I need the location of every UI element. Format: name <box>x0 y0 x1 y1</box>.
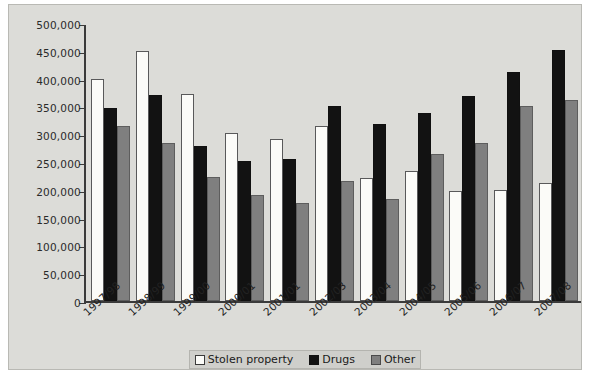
chart-legend: Stolen property Drugs Other <box>189 350 421 369</box>
x-axis-label-cell: 2007/08 <box>536 305 581 355</box>
x-axis-label-cell: 1999/00 <box>174 305 219 355</box>
bar-group <box>222 25 267 301</box>
bar-stolen <box>136 51 149 301</box>
legend-label-stolen-property: Stolen property <box>208 353 293 366</box>
y-axis-tick-label: 50,000 <box>43 269 81 281</box>
legend-swatch-icon-other <box>371 355 381 365</box>
bar-group <box>178 25 223 301</box>
y-axis-tick-label: 150,000 <box>36 214 81 226</box>
bar-stolen <box>405 171 418 301</box>
y-axis-tick-label: 200,000 <box>36 186 81 198</box>
bar-drugs <box>507 72 520 301</box>
bar-stolen <box>315 126 328 301</box>
bar-other <box>207 177 220 301</box>
x-axis-label-cell: 1997/98 <box>84 305 129 355</box>
bar-group <box>133 25 178 301</box>
y-axis-tick-label: 0 <box>74 297 81 309</box>
y-axis-tick-label: 350,000 <box>36 102 81 114</box>
x-axis-label-cell: 2006/07 <box>491 305 536 355</box>
y-axis-tick-label: 100,000 <box>36 241 81 253</box>
x-axis-label-cell: 2005/06 <box>446 305 491 355</box>
x-axis-labels: 1997/981998/991999/002000/012001/012002/… <box>84 305 581 355</box>
bar-group <box>88 25 133 301</box>
bar-stolen <box>270 139 283 301</box>
bar-other <box>117 126 130 301</box>
y-axis-tick-label: 400,000 <box>36 75 81 87</box>
bar-other <box>520 106 533 301</box>
bar-drugs <box>418 113 431 301</box>
bar-drugs <box>104 108 117 301</box>
legend-item-stolen-property: Stolen property <box>195 353 293 366</box>
y-axis-tick-label: 500,000 <box>36 19 81 31</box>
legend-item-other: Other <box>371 353 415 366</box>
bar-stolen <box>494 190 507 301</box>
bar-stolen <box>225 133 238 301</box>
bar-group <box>491 25 536 301</box>
bar-stolen <box>449 191 462 301</box>
bar-group <box>447 25 492 301</box>
legend-label-other: Other <box>384 353 415 366</box>
x-axis-label-cell: 2002/03 <box>310 305 355 355</box>
bar-drugs <box>194 146 207 301</box>
bar-drugs <box>552 50 565 301</box>
bar-other <box>565 100 578 301</box>
bar-stolen <box>181 94 194 301</box>
bar-drugs <box>149 95 162 301</box>
bar-groups <box>88 25 581 301</box>
x-axis-label-cell: 2000/01 <box>220 305 265 355</box>
bar-stolen <box>360 178 373 301</box>
chart-page: 050,000100,000150,000200,000250,000300,0… <box>0 0 590 390</box>
y-axis-tick-label: 450,000 <box>36 47 81 59</box>
legend-label-drugs: Drugs <box>322 353 355 366</box>
x-axis-label-cell: 1998/99 <box>129 305 174 355</box>
chart-panel: 050,000100,000150,000200,000250,000300,0… <box>8 4 582 370</box>
bar-group <box>357 25 402 301</box>
bar-other <box>475 143 488 301</box>
bar-group <box>312 25 357 301</box>
y-axis-tick-label: 300,000 <box>36 130 81 142</box>
x-axis-label-cell: 2001/01 <box>265 305 310 355</box>
plot-area: 050,000100,000150,000200,000250,000300,0… <box>84 25 581 303</box>
bar-other <box>431 154 444 301</box>
legend-item-drugs: Drugs <box>309 353 355 366</box>
bar-stolen <box>91 79 104 301</box>
bar-drugs <box>462 96 475 301</box>
bar-drugs <box>373 124 386 301</box>
bar-drugs <box>328 106 341 301</box>
bar-group <box>402 25 447 301</box>
y-axis-tick-label: 250,000 <box>36 158 81 170</box>
legend-swatch-icon-stolen-property <box>195 355 205 365</box>
bar-other <box>162 143 175 301</box>
legend-swatch-icon-drugs <box>309 355 319 365</box>
bar-group <box>536 25 581 301</box>
x-axis-label-cell: 2004/05 <box>400 305 445 355</box>
x-axis-label-cell: 2003/04 <box>355 305 400 355</box>
bar-group <box>267 25 312 301</box>
bar-stolen <box>539 183 552 301</box>
